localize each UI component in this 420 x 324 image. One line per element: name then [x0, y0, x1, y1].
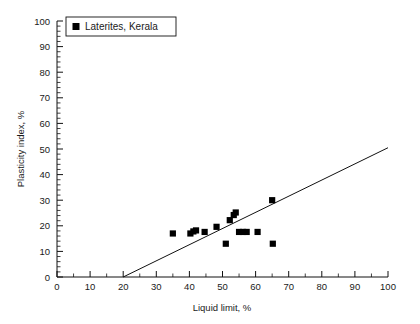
data-point-marker — [193, 227, 199, 233]
data-point-marker — [170, 230, 176, 236]
filled-square-marker-icon — [73, 23, 80, 30]
y-tick-label: 20 — [39, 220, 50, 231]
legend: Laterites, Kerala — [66, 17, 176, 36]
x-axis-title: Liquid limit, % — [193, 302, 252, 313]
x-tick-label: 20 — [118, 281, 129, 292]
y-tick-label: 50 — [39, 144, 50, 155]
x-tick-label: 70 — [283, 281, 294, 292]
legend-entry-label: Laterites, Kerala — [85, 21, 158, 32]
x-tick-label: 90 — [350, 281, 361, 292]
x-tick-label: 10 — [85, 281, 96, 292]
y-tick-label: 30 — [39, 195, 50, 206]
y-axis-title: Plasticity index, % — [15, 110, 26, 187]
y-tick-label: 0 — [45, 272, 50, 283]
x-tick-label: 60 — [250, 281, 261, 292]
scatter-plot-svg: 0102030405060708090100 01020304050607080… — [0, 0, 420, 324]
data-point-marker — [213, 224, 219, 230]
y-tick-label: 40 — [39, 169, 50, 180]
y-tick-label: 10 — [39, 246, 50, 257]
y-tick-label: 90 — [39, 41, 50, 52]
data-point-marker — [244, 229, 250, 235]
x-tick-label: 40 — [184, 281, 195, 292]
data-point-marker — [269, 197, 275, 203]
y-tick-label: 70 — [39, 92, 50, 103]
data-point-marker — [233, 209, 239, 215]
data-point-marker — [270, 241, 276, 247]
chart-figure: 0102030405060708090100 01020304050607080… — [0, 0, 420, 324]
y-tick-label: 100 — [34, 16, 50, 27]
x-tick-label: 0 — [54, 281, 59, 292]
data-point-marker — [254, 229, 260, 235]
x-tick-label: 50 — [217, 281, 228, 292]
x-tick-label: 100 — [380, 281, 396, 292]
plot-background — [0, 0, 420, 324]
x-tick-label: 30 — [151, 281, 162, 292]
data-point-marker — [223, 241, 229, 247]
y-tick-label: 60 — [39, 118, 50, 129]
y-tick-label: 80 — [39, 67, 50, 78]
x-tick-label: 80 — [317, 281, 328, 292]
data-point-marker — [202, 229, 208, 235]
